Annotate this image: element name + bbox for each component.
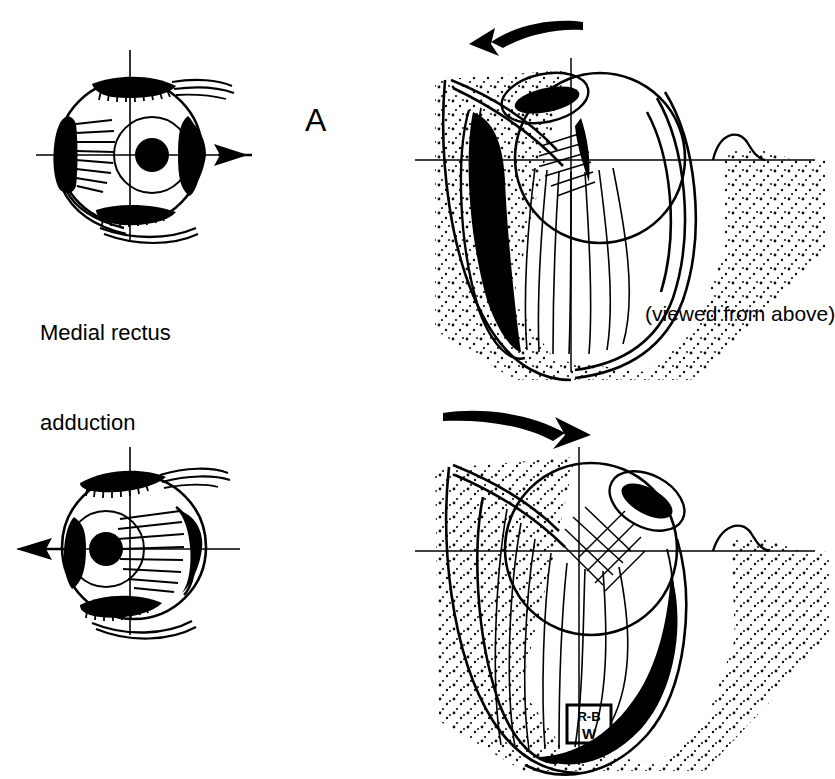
adduction-arrow-right (214, 144, 252, 166)
pupil (89, 532, 123, 566)
eye-diagram-lateral-rectus (0, 389, 290, 719)
figure-root: A Medial rectus adduction (0, 0, 835, 779)
rotation-arrow-right (443, 411, 591, 449)
eye-caption-a-line1: Medial rectus (40, 318, 171, 348)
panel-letter-a: A (305, 104, 327, 136)
rotation-arrow-left (469, 21, 583, 56)
cornea (599, 459, 694, 542)
insertion-dark-mark (575, 118, 590, 182)
superior-rectus-band (92, 77, 234, 102)
signature-line1: R-B (577, 709, 600, 724)
orbit-diagram-abduction: R-B W (395, 389, 835, 779)
signature-line2: W (582, 725, 597, 742)
panel-a: A Medial rectus adduction (0, 0, 835, 390)
insertion-hatching (559, 507, 645, 591)
inferior-rectus-band (96, 205, 198, 243)
superior-rectus-band (80, 469, 230, 498)
orbit-diagram-adduction (395, 0, 835, 390)
muscle-cone-fibres (525, 168, 629, 354)
pupil (135, 138, 169, 172)
panel-b: B Lateral rectus abduction (0, 389, 835, 779)
view-caption-a: (viewed from above) (645, 303, 835, 324)
